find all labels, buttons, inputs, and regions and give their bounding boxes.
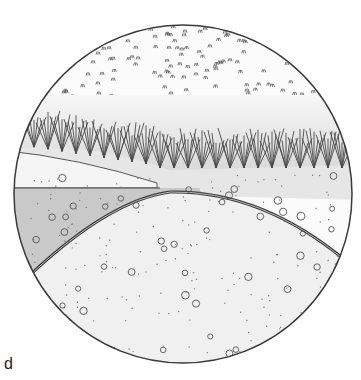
pebble [277,278,278,279]
pebble [77,301,78,302]
pebble [337,255,338,256]
pebble [57,178,58,179]
pebble [316,251,317,252]
pebble [47,324,48,325]
pebble [61,340,62,341]
pebble [270,358,271,359]
pebble [227,290,228,291]
pebble [116,183,117,184]
pebble [84,265,85,266]
pebble [327,260,328,261]
grass-speckle [74,25,78,28]
pebble [85,335,86,336]
pebble [335,298,336,299]
pebble [167,207,168,208]
grass-speckle [20,69,24,72]
pebble [31,303,32,304]
pebble [37,203,38,204]
pebble [55,185,56,186]
grass-speckle [335,54,339,57]
grass-speckle [49,38,53,41]
pebble [209,199,210,200]
grass-speckle [24,47,28,50]
pebble [50,198,51,199]
pebble [263,179,264,180]
pebble [114,357,115,358]
grass-speckle [30,79,34,82]
pebble [330,204,331,205]
grass-speckle [315,76,319,79]
grass-blade [12,116,20,145]
pebble [137,178,138,179]
pebble [34,321,35,322]
pebble [32,254,33,255]
pebble [41,181,42,182]
pebble [115,352,116,353]
grass-speckle [47,27,51,30]
pebble [269,314,270,315]
pebble [64,240,65,241]
pebble [79,192,80,193]
pebble [316,278,317,279]
pebble [73,339,80,346]
pebble [332,361,333,362]
pebble [199,191,200,192]
pebble [254,348,261,355]
pebble [326,192,327,193]
pebble [291,222,292,223]
pebble [194,288,195,289]
pebble [75,243,76,244]
grass-speckle [341,75,345,78]
pebble [330,345,337,352]
pebble [319,319,320,320]
grass-speckle [60,54,64,57]
pebble [300,331,301,332]
pebble [33,340,40,347]
pebble [107,298,108,299]
grass-speckle [324,81,328,84]
pebble [188,346,189,347]
pebble [63,307,64,308]
grass-speckle [294,41,298,44]
pebble [125,320,126,321]
pebble [320,286,321,287]
pebble [140,251,141,252]
pebble [156,264,157,265]
grass-speckle [32,60,36,63]
grass-speckle [76,28,80,31]
pebble [319,175,320,176]
pebble [233,284,234,285]
pebble [120,355,121,356]
pebble [106,261,107,262]
pebble [86,207,87,208]
pebble [221,278,222,279]
pebble [290,356,291,357]
grass-speckle [281,37,285,40]
pebble [175,258,176,259]
pebble [87,185,88,186]
pebble [279,328,280,329]
pebble [274,351,275,352]
pebble [60,313,61,314]
pebble [158,312,159,313]
pebble [335,316,336,317]
grass-speckle [41,57,45,60]
pebble [283,362,284,363]
grass-speckle [129,27,133,30]
pebble [263,307,264,308]
pebble [319,314,320,315]
pebble [268,295,269,296]
pebble [269,232,270,233]
pebble [328,219,329,220]
pebble [71,337,72,338]
pebble [66,210,67,211]
pebble [224,302,225,303]
pebble [308,324,314,330]
grass-speckle [337,104,341,107]
pebble [232,211,233,212]
grass-speckle [23,93,27,96]
pebble [193,272,194,273]
grass-speckle [298,38,302,41]
pebble [184,200,185,201]
pebble [240,312,241,313]
